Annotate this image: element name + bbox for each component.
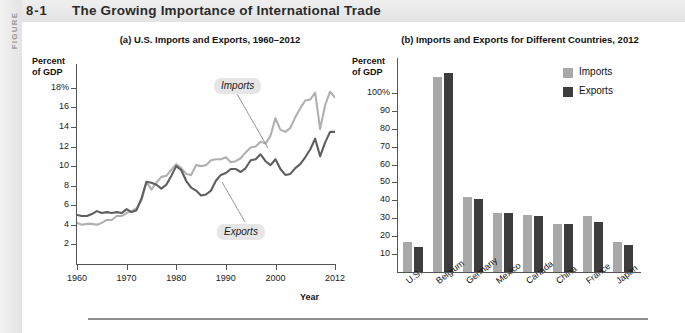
legend-swatch-imports: [563, 68, 573, 78]
chart-a-x-tick: [226, 264, 227, 270]
chart-a-y-tick: [71, 244, 77, 245]
chart-a-y-tick-label: 16: [21, 101, 69, 111]
bar-canada-imports: [523, 215, 532, 272]
chart-b-y-tick: [392, 200, 398, 201]
line-series-exports: [77, 132, 335, 216]
chart-a-y-axis-label: Percent of GDP: [32, 56, 65, 78]
chart-a-y-axis: [76, 64, 77, 264]
chart-a-x-tick-label: 2000: [254, 273, 298, 283]
chart-a-x-axis-label: Year: [300, 292, 319, 303]
annotation-exports: Exports: [217, 224, 265, 240]
legend-label-imports: Imports: [579, 66, 612, 77]
chart-b-y-tick: [392, 147, 398, 148]
chart-a-y-axis-label-line1: Percent: [32, 56, 65, 66]
chart-panel-a: (a) U.S. Imports and Exports, 1960–2012 …: [0, 0, 360, 333]
chart-a-x-axis: [76, 264, 336, 265]
legend-swatch-exports: [563, 87, 573, 97]
chart-a-y-tick: [71, 205, 77, 206]
chart-a-x-tick-label: 1980: [154, 273, 198, 283]
chart-b-y-tick: [392, 93, 398, 94]
chart-a-y-tick: [71, 225, 77, 226]
chart-a-y-tick-label: 4: [21, 219, 69, 229]
chart-a-x-tick: [127, 264, 128, 270]
bar-belgium-imports: [433, 77, 442, 272]
chart-b-y-axis-label: Percent of GDP: [352, 56, 385, 78]
chart-b-y-tick: [392, 236, 398, 237]
footer-divider: [88, 318, 648, 320]
bar-japan-imports: [613, 242, 622, 272]
chart-a-y-tick: [71, 147, 77, 148]
figure-root: FIGURE 8-1 The Growing Importance of Int…: [0, 0, 685, 333]
chart-a-y-tick-label: 14: [21, 121, 69, 131]
annotation-imports: Imports: [214, 78, 261, 94]
chart-a-svg: [77, 78, 335, 264]
chart-b-title: (b) Imports and Exports for Different Co…: [360, 34, 680, 45]
chart-a-y-tick-label: 8: [21, 180, 69, 190]
chart-a-title: (a) U.S. Imports and Exports, 1960–2012: [60, 34, 360, 45]
bar-germany-imports: [463, 197, 472, 272]
bar-china-imports: [553, 224, 562, 272]
chart-b-y-tick-label: 20: [346, 230, 390, 240]
chart-a-y-tick-label: 12: [21, 141, 69, 151]
chart-b-y-tick: [392, 254, 398, 255]
chart-b-y-tick-label: 30: [346, 212, 390, 222]
chart-a-y-tick: [71, 186, 77, 187]
chart-b-y-tick: [392, 165, 398, 166]
bar-germany-exports: [474, 199, 483, 272]
bar-france-imports: [583, 216, 592, 272]
chart-a-y-tick-label: 6: [21, 199, 69, 209]
chart-a-x-tick-label: 1970: [105, 273, 149, 283]
chart-b-y-tick: [392, 218, 398, 219]
chart-b-y-tick-label: 70: [346, 141, 390, 151]
chart-a-y-tick: [71, 166, 77, 167]
chart-b-y-axis-label-line1: Percent: [352, 56, 385, 66]
chart-b-x-axis: [397, 272, 641, 273]
chart-a-y-tick-label: 10: [21, 160, 69, 170]
chart-a-y-axis-label-line2: of GDP: [32, 67, 63, 77]
chart-b-y-tick-label: 90: [346, 105, 390, 115]
chart-a-x-tick-label: 1990: [204, 273, 248, 283]
chart-b-y-tick: [392, 111, 398, 112]
chart-a-y-tick-label: 2: [21, 238, 69, 248]
chart-a-x-tick: [77, 264, 78, 270]
chart-b-y-tick-label: 80: [346, 123, 390, 133]
chart-a-x-tick-label: 1960: [55, 273, 99, 283]
chart-b-y-axis-label-line2: of GDP: [352, 67, 383, 77]
chart-panel-b: (b) Imports and Exports for Different Co…: [350, 0, 685, 333]
chart-a-y-tick: [71, 127, 77, 128]
line-series-imports: [77, 92, 335, 225]
chart-b-y-tick-label: 40: [346, 194, 390, 204]
chart-a-y-tick: [71, 107, 77, 108]
chart-a-x-tick: [335, 264, 336, 270]
chart-b-y-tick-label: 10: [346, 248, 390, 258]
bar-us-imports: [403, 242, 412, 272]
chart-b-y-tick: [392, 182, 398, 183]
chart-a-x-tick: [176, 264, 177, 270]
chart-a-x-tick: [276, 264, 277, 270]
chart-a-y-tick-label: 18%: [21, 82, 69, 92]
bar-belgium-exports: [444, 73, 453, 272]
chart-b-y-tick: [392, 129, 398, 130]
legend-label-exports: Exports: [579, 85, 613, 96]
chart-b-y-tick-label: 60: [346, 159, 390, 169]
chart-b-plot-area: [398, 66, 638, 272]
chart-a-plot-area: [77, 78, 335, 264]
chart-b-y-tick-label: 50: [346, 176, 390, 186]
chart-a-y-tick: [71, 88, 77, 89]
chart-b-y-tick-label: 100%: [346, 87, 390, 97]
